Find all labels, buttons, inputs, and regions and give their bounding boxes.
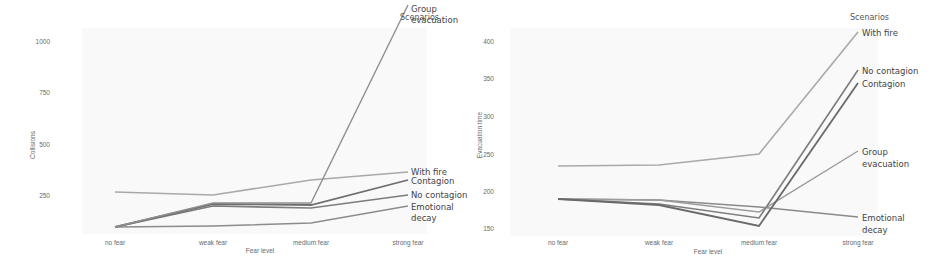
y-tick: 500 (39, 141, 50, 148)
y-tick: 200 (483, 188, 494, 195)
series-label-with-fire: With fire (862, 28, 898, 38)
y-axis-title: Collisions (29, 130, 36, 159)
x-axis-title: Fear level (694, 248, 723, 255)
x-tick: weak fear (644, 239, 674, 246)
series-label-group-evacuation: evacuation (862, 159, 909, 169)
x-tick: strong fear (842, 239, 874, 247)
y-tick: 400 (483, 38, 494, 45)
x-tick: no fear (548, 239, 569, 246)
y-tick: 300 (483, 113, 494, 120)
series-label-emotional-decay: decay (411, 213, 437, 223)
x-tick: no fear (105, 239, 126, 246)
series-label-no-contagion: No contagion (411, 190, 467, 200)
y-tick: 1000 (36, 38, 51, 45)
evacuation-time-chart: 400 350 300 250 200 150 Evacuation time … (470, 0, 943, 268)
x-axis-title: Fear level (246, 247, 275, 254)
y-tick: 350 (483, 75, 494, 82)
collisions-chart: 1000 750 500 250 Collisions no fear weak… (0, 0, 470, 268)
y-axis-title: Evacuation time (476, 111, 483, 158)
series-label-group-evacuation: Group (862, 147, 888, 157)
series-label-group-evacuation: evacuation (411, 15, 458, 25)
evacuation-time-chart-svg: 400 350 300 250 200 150 Evacuation time … (470, 0, 943, 268)
y-tick: 750 (39, 89, 50, 96)
series-label-contagion: Contagion (411, 176, 454, 186)
series-label-emotional-decay: decay (862, 225, 888, 235)
y-tick: 250 (39, 192, 50, 199)
series-label-emotional-decay: Emotional (411, 202, 454, 212)
y-tick: 150 (483, 225, 494, 232)
series-label-no-contagion: No contagion (862, 66, 918, 76)
series-label-emotional-decay: Emotional (862, 213, 905, 223)
collisions-chart-svg: 1000 750 500 250 Collisions no fear weak… (0, 0, 470, 268)
legend-title: Scenarios (850, 13, 889, 22)
x-tick: strong fear (392, 239, 424, 247)
x-tick: medium fear (741, 239, 778, 246)
y-tick: 250 (483, 151, 494, 158)
x-tick: medium fear (293, 239, 330, 246)
x-tick: weak fear (198, 239, 228, 246)
series-label-group-evacuation: Group (411, 4, 437, 14)
series-label-contagion: Contagion (862, 79, 905, 89)
